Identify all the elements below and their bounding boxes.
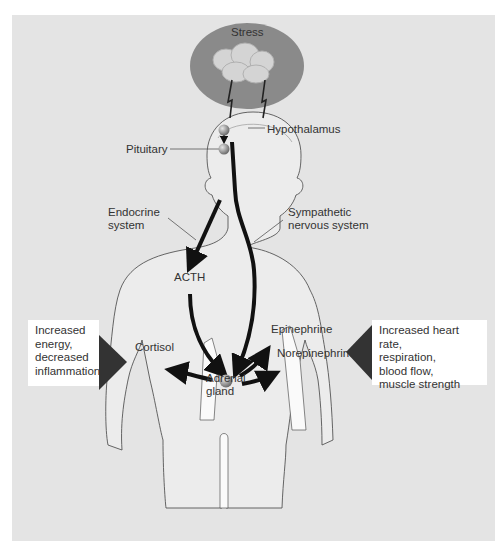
body-diagram: [0, 0, 502, 549]
endocrine-system-label: Endocrine system: [108, 206, 160, 232]
pituitary-label: Pituitary: [126, 143, 168, 156]
left-callout-box: Increased energy, decreased inflammation: [28, 320, 99, 386]
right-callout-box: Increased heart rate, respiration, blood…: [372, 320, 487, 385]
hypothalamus-label: Hypothalamus: [267, 123, 341, 136]
cortisol-label: Cortisol: [135, 341, 174, 354]
stress-label: Stress: [231, 26, 264, 39]
adrenal-gland-label: Adrenal gland: [206, 372, 246, 398]
leg-gap: [220, 434, 228, 509]
epinephrine-label: Epinephrine: [271, 323, 332, 336]
sympathetic-system-label: Sympathetic nervous system: [288, 206, 369, 232]
hypothalamus-gland: [219, 125, 230, 136]
pituitary-gland: [219, 144, 230, 155]
human-silhouette: [106, 112, 333, 508]
acth-label: ACTH: [174, 271, 205, 284]
norepinephrine-label: Norepinephrine: [277, 347, 356, 360]
